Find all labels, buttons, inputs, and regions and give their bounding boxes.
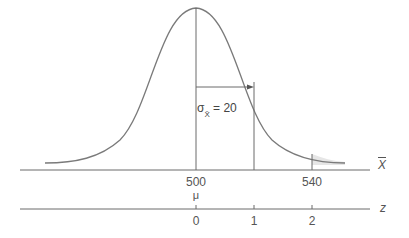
z-tick-label-0: 0 xyxy=(193,214,200,228)
z-axis-label: z xyxy=(380,201,386,215)
mu-label: μ xyxy=(193,189,199,201)
x-tick-500: 500 xyxy=(186,175,206,189)
z-tick-label-1: 1 xyxy=(251,214,258,228)
x-tick-540: 540 xyxy=(302,175,322,189)
arrowhead-icon xyxy=(247,85,254,90)
bell-curve xyxy=(45,8,345,163)
z-tick-label-2: 2 xyxy=(309,214,316,228)
sigma-label: σX̄ = 20 xyxy=(197,101,237,117)
normal-curve-diagram xyxy=(0,0,409,238)
x-axis-label: X xyxy=(378,158,386,172)
